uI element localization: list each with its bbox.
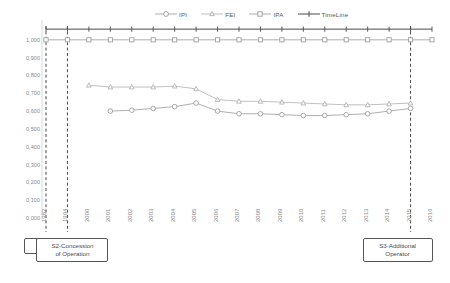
data-point-marker bbox=[280, 112, 285, 117]
data-point-marker bbox=[258, 38, 262, 42]
data-point-marker bbox=[408, 38, 412, 42]
data-point-marker bbox=[258, 99, 263, 103]
x-axis-tick-label: 2004 bbox=[170, 208, 176, 222]
data-point-marker bbox=[301, 38, 305, 42]
data-point-marker bbox=[322, 101, 327, 105]
x-axis-tick-label: 2016 bbox=[427, 208, 433, 222]
annotation-label-s3-line2: Operator bbox=[368, 250, 428, 258]
data-point-marker bbox=[365, 111, 370, 116]
data-point-marker bbox=[237, 111, 242, 116]
data-point-marker bbox=[301, 113, 306, 118]
data-point-marker bbox=[215, 109, 220, 114]
data-point-marker bbox=[387, 38, 391, 42]
data-point-marker bbox=[237, 38, 241, 42]
y-axis-tick-label: 0,800 bbox=[26, 72, 40, 78]
data-point-marker bbox=[387, 101, 392, 105]
annotation-label-s3-line1: S3-Additional bbox=[368, 242, 428, 250]
data-point-marker bbox=[65, 38, 69, 42]
data-point-marker bbox=[130, 38, 134, 42]
data-point-marker bbox=[194, 101, 199, 106]
x-axis-tick-label: 2009 bbox=[277, 208, 283, 222]
legend-label-timeline: TimeLine bbox=[322, 11, 349, 18]
data-point-marker bbox=[344, 102, 349, 106]
data-point-marker bbox=[173, 38, 177, 42]
data-point-marker bbox=[280, 100, 285, 104]
legend-label-ipi: IPI bbox=[179, 11, 187, 18]
series-line-fei bbox=[89, 85, 411, 105]
data-point-marker bbox=[280, 38, 284, 42]
data-point-marker bbox=[151, 38, 155, 42]
y-axis-tick-label: 0,200 bbox=[26, 179, 40, 185]
data-point-marker bbox=[87, 38, 91, 42]
x-axis-tick-label: 2014 bbox=[384, 208, 390, 222]
legend-label-fei: FEI bbox=[225, 11, 235, 18]
data-point-marker bbox=[387, 109, 392, 114]
data-point-marker bbox=[408, 106, 413, 111]
x-axis-tick-label: 2000 bbox=[84, 208, 90, 222]
x-axis-tick-label: 2010 bbox=[298, 208, 304, 222]
x-axis-tick-label: 2011 bbox=[320, 208, 326, 222]
y-axis-tick-label: 0,000 bbox=[26, 215, 40, 221]
data-point-marker bbox=[322, 113, 327, 118]
x-axis-tick-label: 2003 bbox=[148, 208, 154, 222]
data-point-marker bbox=[301, 101, 306, 105]
data-point-marker bbox=[258, 111, 263, 116]
data-point-marker bbox=[215, 38, 219, 42]
y-axis-tick-label: 0,900 bbox=[26, 55, 40, 61]
data-point-marker bbox=[108, 38, 112, 42]
data-point-marker bbox=[129, 108, 134, 113]
y-axis-tick-label: 0,300 bbox=[26, 162, 40, 168]
data-point-marker bbox=[87, 83, 92, 87]
y-axis-tick-label: 1,000 bbox=[26, 37, 40, 43]
data-point-marker bbox=[344, 112, 349, 117]
legend-item-fei: FEI bbox=[201, 10, 235, 18]
legend-label-ipa: IPA bbox=[273, 11, 283, 18]
data-point-marker bbox=[172, 84, 177, 88]
data-point-marker bbox=[408, 101, 413, 105]
legend-marker-cross-icon bbox=[298, 10, 320, 18]
annotation-callout-s2-concession: S2-Concession of Operation bbox=[36, 238, 108, 262]
legend-marker-circle-icon bbox=[155, 10, 177, 18]
data-point-marker bbox=[194, 86, 199, 90]
data-point-marker bbox=[365, 102, 370, 106]
x-axis-tick-label: 2002 bbox=[127, 208, 133, 222]
data-point-marker bbox=[108, 109, 113, 114]
data-point-marker bbox=[151, 106, 156, 111]
data-point-marker bbox=[44, 38, 48, 42]
annotation-label-s2-line1: S2-Concession bbox=[41, 242, 103, 250]
x-axis-tick-label: 2012 bbox=[341, 208, 347, 222]
legend-marker-square-icon bbox=[249, 10, 271, 18]
x-axis-tick-label: 2007 bbox=[234, 208, 240, 222]
data-point-marker bbox=[151, 85, 156, 89]
y-axis-tick-label: 0,700 bbox=[26, 90, 40, 96]
chart-legend: IPI FEI IPA TimeLine bbox=[155, 10, 348, 18]
annotation-callout-s3-additional-operator: S3-Additional Operator bbox=[363, 238, 433, 262]
x-axis-tick-label: 2006 bbox=[213, 208, 219, 222]
data-point-marker bbox=[215, 97, 220, 101]
x-axis-tick-label: 2015 bbox=[406, 208, 412, 222]
x-axis-tick-label: 2013 bbox=[363, 208, 369, 222]
data-point-marker bbox=[344, 38, 348, 42]
annotation-label-s2-line2: of Operation bbox=[41, 250, 103, 258]
chart-container: IPI FEI IPA TimeLine 1,0000,9000,8000,70… bbox=[0, 0, 450, 283]
y-axis-tick-label: 0,100 bbox=[26, 197, 40, 203]
data-point-marker bbox=[237, 99, 242, 103]
data-point-marker bbox=[430, 38, 434, 42]
y-axis-tick-label: 0,400 bbox=[26, 144, 40, 150]
x-axis-tick-label: 2001 bbox=[105, 208, 111, 222]
data-point-marker bbox=[172, 104, 177, 109]
x-axis-tick-label: 2008 bbox=[255, 208, 261, 222]
legend-item-timeline: TimeLine bbox=[298, 10, 349, 18]
data-point-marker bbox=[323, 38, 327, 42]
legend-item-ipi: IPI bbox=[155, 10, 187, 18]
x-axis-tick-label: 2005 bbox=[191, 208, 197, 222]
legend-marker-triangle-icon bbox=[201, 10, 223, 18]
x-axis-tick-label: 1982 bbox=[41, 208, 47, 222]
data-point-marker bbox=[194, 38, 198, 42]
y-axis-tick-label: 0,500 bbox=[26, 126, 40, 132]
data-point-marker bbox=[108, 85, 113, 89]
data-point-marker bbox=[129, 85, 134, 89]
x-axis-tick-label: 1994 bbox=[62, 208, 68, 222]
y-axis-tick-label: 0,600 bbox=[26, 108, 40, 114]
legend-item-ipa: IPA bbox=[249, 10, 283, 18]
